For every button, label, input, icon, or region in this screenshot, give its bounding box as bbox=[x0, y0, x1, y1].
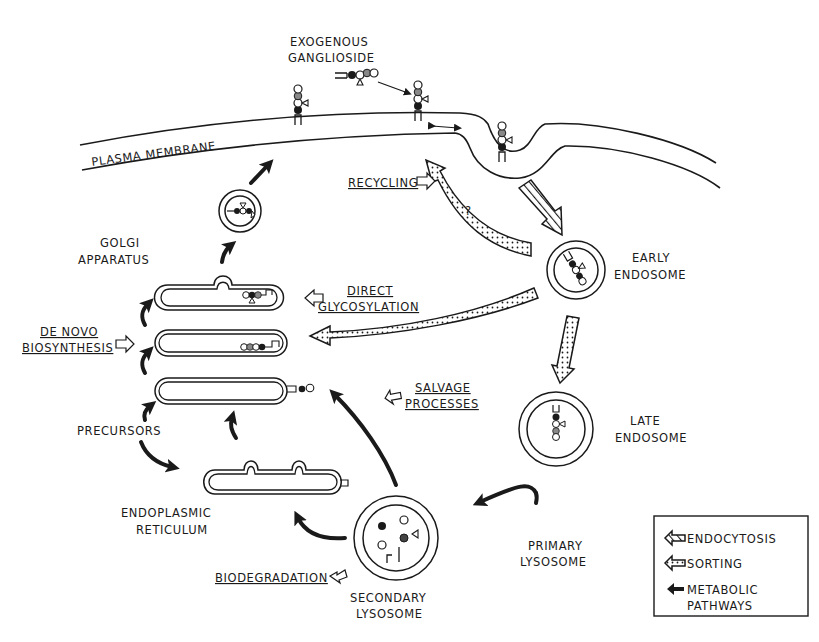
de-novo-biosynthesis-label-1: DE NOVO bbox=[40, 325, 98, 339]
endoplasmic-reticulum bbox=[204, 461, 348, 494]
primary-lysosome-label-1: PRIMARY bbox=[528, 539, 583, 553]
late-endosome-label-1: LATE bbox=[630, 414, 660, 428]
membrane-ganglioside-1-icon bbox=[294, 85, 308, 125]
recycling-question-mark: ? bbox=[465, 204, 472, 218]
endoplasmic-reticulum-label-2: RETICULUM bbox=[136, 523, 208, 537]
golgi-to-vesicle-arrow-icon bbox=[222, 246, 230, 262]
golgi-cisterna-2 bbox=[155, 330, 287, 356]
lateral-diffusion-arrow-icon bbox=[432, 126, 458, 128]
exogenous-ganglioside-molecule-icon bbox=[335, 69, 378, 85]
early-endosome bbox=[547, 241, 605, 299]
salvage-processes-label-1: SALVAGE bbox=[415, 381, 471, 395]
precursor-to-er-arrow-icon bbox=[141, 442, 172, 467]
salvage-arrow-icon bbox=[335, 395, 396, 485]
salvage-pointer-icon bbox=[384, 389, 402, 406]
salvage-processes-label-2: PROCESSES bbox=[405, 397, 479, 411]
de-novo-pointer-icon bbox=[116, 336, 134, 352]
late-endosome-sorting-arrow-icon bbox=[552, 316, 579, 383]
golgi-cisterna-1 bbox=[155, 276, 284, 310]
golgi-apparatus-label-1: GOLGI bbox=[100, 236, 140, 250]
legend-label-metabolic: METABOLIC bbox=[687, 583, 758, 597]
endocytosis-arrow-icon bbox=[519, 180, 562, 235]
biodegradation-label: BIODEGRADATION bbox=[215, 571, 328, 585]
golgi-step-arrow-2-icon bbox=[142, 352, 148, 373]
vesicle-to-membrane-arrow-icon bbox=[251, 165, 268, 183]
direct-glycosylation-label-1: DIRECT bbox=[347, 284, 394, 298]
insertion-arrow-icon bbox=[378, 82, 408, 93]
late-endosome-fusion-arc bbox=[536, 493, 537, 503]
legend-label-pathways: PATHWAYS bbox=[687, 599, 753, 613]
primary-lysosome-label-2: LYSOSOME bbox=[520, 555, 587, 569]
ganglioside-trafficking-diagram: PLASMA MEMBRANE EXOGENOUS GANGLIOSIDE EA… bbox=[0, 0, 819, 642]
direct-glycosylation-label-2: GLYCOSYLATION bbox=[318, 300, 419, 314]
legend-label-endocytosis: ENDOCYTOSIS bbox=[687, 532, 776, 546]
endoplasmic-reticulum-label-1: ENDOPLASMIC bbox=[121, 506, 212, 520]
secondary-lysosome bbox=[354, 496, 438, 580]
legend: ENDOCYTOSIS SORTING METABOLIC PATHWAYS bbox=[654, 516, 808, 616]
transport-vesicle bbox=[219, 190, 261, 232]
er-to-golgi-arrow-icon bbox=[231, 418, 236, 438]
early-endosome-label-2: ENDOSOME bbox=[614, 268, 686, 282]
plasma-membrane-label: PLASMA MEMBRANE bbox=[91, 139, 217, 169]
recycling-label: RECYCLING bbox=[348, 176, 418, 190]
golgi-cisterna-3 bbox=[155, 378, 314, 404]
late-endosome-label-2: ENDOSOME bbox=[615, 431, 687, 445]
golgi-step-arrow-1-icon bbox=[142, 304, 148, 325]
golgi-sorting-arrow-icon bbox=[310, 288, 538, 345]
secondary-lysosome-label-1: SECONDARY bbox=[350, 591, 427, 605]
de-novo-biosynthesis-label-2: BIOSYNTHESIS bbox=[22, 341, 113, 355]
recycling-arrow-icon bbox=[426, 160, 531, 256]
precursors-label: PRECURSORS bbox=[77, 424, 161, 438]
early-endosome-label-1: EARLY bbox=[632, 251, 670, 265]
legend-label-sorting: SORTING bbox=[687, 557, 743, 571]
membrane-ganglioside-2-icon bbox=[414, 81, 428, 121]
exogenous-ganglioside-label-2: GANGLIOSIDE bbox=[288, 51, 375, 65]
primary-lysosome-arrow-icon bbox=[480, 486, 536, 502]
biodegradation-arrow-icon bbox=[298, 518, 345, 538]
late-endosome bbox=[519, 392, 593, 466]
precursor-to-golgi-arrow-icon bbox=[144, 406, 150, 420]
secondary-lysosome-label-2: LYSOSOME bbox=[356, 607, 423, 621]
exogenous-ganglioside-label-1: EXOGENOUS bbox=[290, 35, 368, 49]
golgi-apparatus-label-2: APPARATUS bbox=[78, 253, 150, 267]
pit-ganglioside-icon bbox=[498, 122, 512, 162]
biodegradation-pointer-icon bbox=[330, 570, 347, 583]
